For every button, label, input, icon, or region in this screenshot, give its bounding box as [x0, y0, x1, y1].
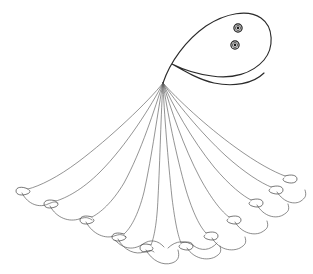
figure-background	[0, 0, 313, 274]
ocellus-upper-ring-3	[237, 27, 240, 30]
medusa-line-drawing	[0, 0, 313, 274]
ocellus-lower-ring-3	[234, 44, 237, 47]
figure-canvas	[0, 0, 313, 274]
